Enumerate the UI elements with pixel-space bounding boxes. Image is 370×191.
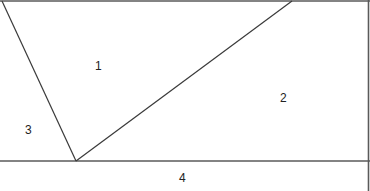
left-diagonal-edge <box>2 1 76 161</box>
partition-diagram: 1 2 3 4 <box>0 0 370 191</box>
region-3-label: 3 <box>25 123 32 137</box>
region-1-label: 1 <box>95 59 102 73</box>
region-4-label: 4 <box>179 171 186 185</box>
region-2-label: 2 <box>280 91 287 105</box>
right-diagonal-edge <box>76 1 292 161</box>
